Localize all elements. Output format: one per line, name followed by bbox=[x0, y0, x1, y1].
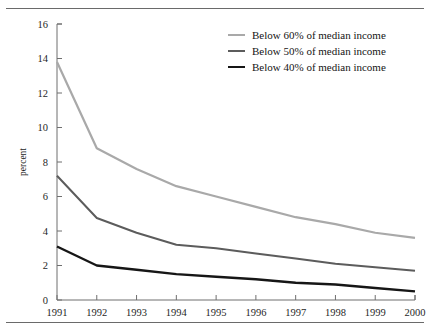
series-line-1 bbox=[57, 62, 415, 238]
y-axis-title: percent bbox=[18, 148, 28, 176]
chart-legend: Below 60% of median incomeBelow 50% of m… bbox=[228, 28, 386, 76]
y-tick-label: 4 bbox=[43, 226, 49, 237]
legend-label: Below 50% of median income bbox=[252, 44, 386, 58]
y-axis-tick-labels: 0246810121416 bbox=[38, 19, 49, 306]
y-tick-label: 8 bbox=[43, 157, 48, 168]
legend-item-3[interactable]: Below 40% of median income bbox=[228, 60, 386, 74]
chart-page: 0246810121416 19911992199319941995199619… bbox=[0, 0, 430, 332]
legend-swatch-line-icon bbox=[228, 66, 245, 68]
x-tick-label: 1995 bbox=[206, 307, 227, 318]
legend-label: Below 60% of median income bbox=[252, 28, 386, 42]
x-tick-label: 2000 bbox=[405, 307, 426, 318]
series-line-3 bbox=[57, 247, 415, 292]
legend-item-1[interactable]: Below 60% of median income bbox=[228, 28, 386, 42]
y-tick-label: 14 bbox=[38, 53, 49, 64]
x-tick-label: 1993 bbox=[126, 307, 147, 318]
x-tick-label: 1998 bbox=[325, 307, 346, 318]
y-tick-label: 12 bbox=[38, 88, 49, 99]
x-axis-tick-labels: 1991199219931994199519961997199819992000 bbox=[47, 307, 426, 318]
x-tick-label: 1996 bbox=[245, 307, 266, 318]
y-tick-label: 16 bbox=[38, 19, 49, 30]
x-tick-label: 1991 bbox=[47, 307, 68, 318]
x-tick-label: 1992 bbox=[86, 307, 107, 318]
y-tick-label: 2 bbox=[43, 260, 48, 271]
y-tick-label: 6 bbox=[43, 191, 48, 202]
legend-swatch-line-icon bbox=[228, 50, 245, 52]
legend-label: Below 40% of median income bbox=[252, 60, 386, 74]
x-axis-tick-marks bbox=[57, 295, 415, 300]
legend-item-2[interactable]: Below 50% of median income bbox=[228, 44, 386, 58]
series-line-2 bbox=[57, 176, 415, 271]
x-tick-label: 1994 bbox=[166, 307, 188, 318]
x-tick-label: 1999 bbox=[365, 307, 386, 318]
series-lines bbox=[57, 62, 415, 291]
y-tick-label: 10 bbox=[38, 122, 49, 133]
x-tick-label: 1997 bbox=[285, 307, 306, 318]
y-tick-label: 0 bbox=[43, 295, 48, 306]
legend-swatch-line-icon bbox=[228, 34, 245, 36]
